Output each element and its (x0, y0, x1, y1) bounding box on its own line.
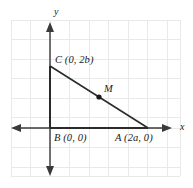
y-axis-arrow-up (46, 22, 54, 32)
vertex-label-b: B (0, 0) (54, 133, 87, 144)
y-axis-label: y (54, 7, 59, 17)
midpoint-m-dot (96, 94, 101, 99)
x-axis-arrow-left (11, 124, 21, 132)
figure-canvas: y x C (0, 2b) B (0, 0) A (2a, 0) M (0, 0, 193, 188)
y-axis-arrow-down (46, 166, 54, 176)
vertex-label-c: C (0, 2b) (55, 55, 94, 66)
grid-lines (11, 20, 180, 176)
coordinate-plane-figure (0, 0, 193, 188)
midpoint-label-m: M (104, 84, 113, 95)
vertex-label-a: A (2a, 0) (115, 133, 153, 144)
x-axis-label: x (180, 122, 185, 132)
